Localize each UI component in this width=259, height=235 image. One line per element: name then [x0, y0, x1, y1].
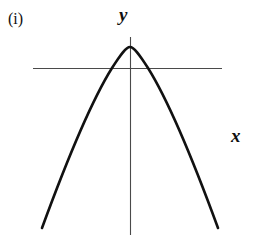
- part-label: (i): [8, 11, 23, 27]
- parabola-graph-svg: [0, 0, 259, 235]
- x-axis-label: x: [231, 126, 241, 145]
- figure-container: (i) y x: [0, 0, 259, 235]
- y-axis-label: y: [119, 5, 127, 24]
